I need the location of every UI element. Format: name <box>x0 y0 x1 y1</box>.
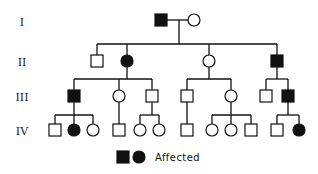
legend-affected-female-icon <box>133 151 145 163</box>
unaffected-female-symbol <box>153 124 165 136</box>
unaffected-male-symbol <box>146 90 158 102</box>
unaffected-female-symbol <box>134 124 146 136</box>
legend-label: Affected <box>155 151 200 164</box>
unaffected-male-symbol <box>245 124 257 136</box>
generation-label-4: IV <box>16 125 29 138</box>
generation-label-2: II <box>18 56 27 69</box>
unaffected-male-symbol <box>271 124 283 136</box>
affected-male-symbol <box>282 90 294 102</box>
unaffected-female-symbol <box>87 124 99 136</box>
pedigree-chart: I II III IV <box>0 0 318 174</box>
generation-4 <box>49 124 305 136</box>
generation-label-1: I <box>20 16 24 29</box>
generation-2 <box>91 55 283 67</box>
legend-affected-male-icon <box>117 151 129 163</box>
unaffected-female-symbol <box>203 55 215 67</box>
unaffected-male-symbol <box>49 124 61 136</box>
pedigree-lines <box>55 20 299 124</box>
unaffected-male-symbol <box>91 55 103 67</box>
generation-label-3: III <box>15 91 28 104</box>
affected-female-symbol <box>68 124 80 136</box>
affected-male-symbol <box>155 14 167 26</box>
legend: Affected <box>117 151 200 164</box>
unaffected-female-symbol <box>225 124 237 136</box>
affected-female-symbol <box>121 55 133 67</box>
generation-3 <box>68 90 294 102</box>
unaffected-male-symbol <box>113 124 125 136</box>
unaffected-male-symbol <box>181 124 193 136</box>
affected-male-symbol <box>271 55 283 67</box>
unaffected-female-symbol <box>225 90 237 102</box>
unaffected-female-symbol <box>206 124 218 136</box>
unaffected-female-symbol <box>113 90 125 102</box>
affected-male-symbol <box>68 90 80 102</box>
affected-female-symbol <box>293 124 305 136</box>
unaffected-male-symbol <box>181 90 193 102</box>
unaffected-female-symbol <box>188 14 200 26</box>
unaffected-male-symbol <box>260 90 272 102</box>
